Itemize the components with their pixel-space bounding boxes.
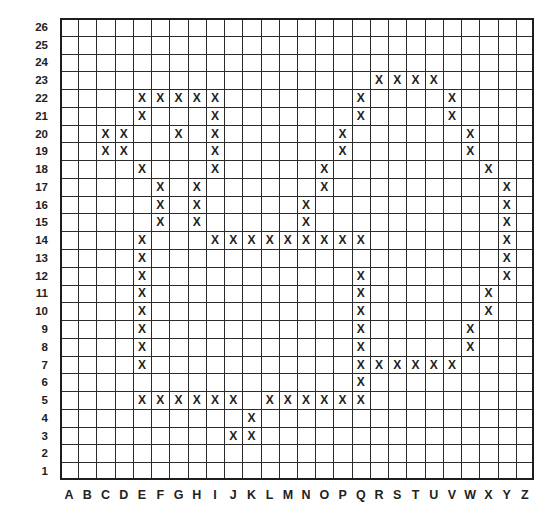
grid-mark-x: X	[498, 178, 516, 196]
grid-mark-x: X	[479, 160, 497, 178]
grid-mark-x: X	[151, 89, 169, 107]
grid-mark-x: X	[170, 89, 188, 107]
column-label: X	[479, 488, 497, 502]
grid-mark-x: X	[97, 125, 115, 143]
row-label: 1	[18, 465, 48, 477]
row-label: 11	[18, 287, 48, 299]
grid-line-horizontal	[62, 373, 532, 374]
grid-mark-x: X	[352, 284, 370, 302]
grid-mark-x: X	[461, 338, 479, 356]
grid-mark-x: X	[133, 249, 151, 267]
column-label: V	[443, 488, 461, 502]
column-label: E	[133, 488, 151, 502]
grid-mark-x: X	[443, 356, 461, 374]
grid-mark-x: X	[370, 356, 388, 374]
column-label: W	[461, 488, 479, 502]
grid-mark-x: X	[425, 356, 443, 374]
row-label: 9	[18, 323, 48, 335]
grid-mark-x: X	[206, 125, 224, 143]
grid-mark-x: X	[115, 125, 133, 143]
grid-mark-x: X	[133, 320, 151, 338]
grid-line-horizontal	[62, 71, 532, 72]
grid-mark-x: X	[261, 391, 279, 409]
row-label: 7	[18, 359, 48, 371]
grid-line-horizontal	[62, 54, 532, 55]
row-label: 12	[18, 270, 48, 282]
grid-mark-x: X	[133, 302, 151, 320]
column-label: B	[78, 488, 96, 502]
grid-mark-x: X	[479, 302, 497, 320]
grid-mark-x: X	[133, 160, 151, 178]
column-label: A	[60, 488, 78, 502]
grid-mark-x: X	[297, 196, 315, 214]
grid-mark-x: X	[206, 107, 224, 125]
grid-mark-x: X	[170, 125, 188, 143]
row-label: 6	[18, 376, 48, 388]
grid-mark-x: X	[443, 89, 461, 107]
grid-mark-x: X	[498, 231, 516, 249]
grid-mark-x: X	[206, 160, 224, 178]
grid-mark-x: X	[388, 356, 406, 374]
row-label: 2	[18, 447, 48, 459]
grid-line-horizontal	[62, 409, 532, 410]
column-label: M	[279, 488, 297, 502]
grid-mark-x: X	[224, 391, 242, 409]
row-label: 23	[18, 74, 48, 86]
grid-mark-x: X	[461, 142, 479, 160]
grid-mark-x: X	[352, 231, 370, 249]
grid-mark-x: X	[206, 391, 224, 409]
grid-line-horizontal	[62, 427, 532, 428]
grid-mark-x: X	[188, 178, 206, 196]
grid-mark-x: X	[479, 284, 497, 302]
column-label: J	[224, 488, 242, 502]
grid-mark-x: X	[151, 196, 169, 214]
row-label: 10	[18, 305, 48, 317]
grid-mark-x: X	[133, 284, 151, 302]
column-label: O	[315, 488, 333, 502]
grid-mark-x: X	[133, 107, 151, 125]
column-label: H	[188, 488, 206, 502]
row-label: 19	[18, 145, 48, 157]
column-label: U	[425, 488, 443, 502]
row-label: 13	[18, 252, 48, 264]
grid-mark-x: X	[206, 231, 224, 249]
column-label: C	[97, 488, 115, 502]
grid-mark-x: X	[242, 409, 260, 427]
row-label: 22	[18, 92, 48, 104]
grid-mark-x: X	[297, 213, 315, 231]
column-label: Y	[498, 488, 516, 502]
grid-mark-x: X	[151, 213, 169, 231]
grid-mark-x: X	[352, 373, 370, 391]
column-label: F	[151, 488, 169, 502]
column-label: T	[407, 488, 425, 502]
grid-mark-x: X	[352, 107, 370, 125]
coordinate-grid: XXXXXXXXXXXXXXXXXXXXXXXXXXXXXXXXXXXXXXXX…	[60, 18, 534, 480]
grid-mark-x: X	[352, 89, 370, 107]
grid-mark-x: X	[334, 231, 352, 249]
grid-mark-x: X	[461, 125, 479, 143]
grid-mark-x: X	[334, 391, 352, 409]
column-label: S	[388, 488, 406, 502]
grid-mark-x: X	[461, 320, 479, 338]
grid-mark-x: X	[388, 71, 406, 89]
grid-mark-x: X	[352, 356, 370, 374]
column-label: L	[261, 488, 279, 502]
grid-line-horizontal	[62, 444, 532, 445]
column-label: P	[334, 488, 352, 502]
grid-mark-x: X	[425, 71, 443, 89]
column-label: I	[206, 488, 224, 502]
column-label: G	[170, 488, 188, 502]
grid-mark-x: X	[170, 391, 188, 409]
grid-mark-x: X	[352, 338, 370, 356]
grid-mark-x: X	[334, 142, 352, 160]
grid-mark-x: X	[224, 231, 242, 249]
column-label: Z	[516, 488, 534, 502]
row-label: 25	[18, 39, 48, 51]
grid-mark-x: X	[242, 231, 260, 249]
grid-mark-x: X	[352, 320, 370, 338]
row-label: 26	[18, 21, 48, 33]
grid-line-horizontal	[62, 36, 532, 37]
row-label: 3	[18, 430, 48, 442]
grid-mark-x: X	[498, 267, 516, 285]
grid-mark-x: X	[315, 391, 333, 409]
